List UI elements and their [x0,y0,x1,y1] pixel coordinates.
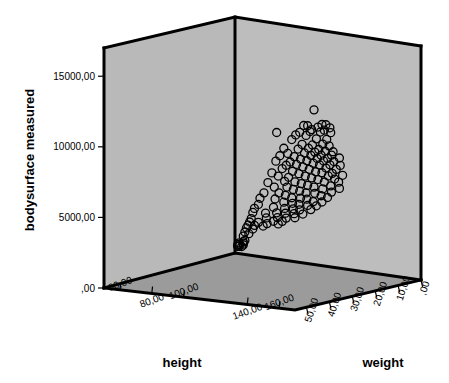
z-axis: 15000,0010000,005000,00,00 [53,71,104,294]
plot-canvas: 15000,0010000,005000,00,00 60,0080,00100… [0,0,449,383]
back-left-wall [104,17,235,288]
z-tick-label: 10000,00 [53,141,95,152]
x-tick-mark [152,287,153,294]
z-tick-label: 15000,00 [53,71,95,82]
y-axis-title: weight [361,355,404,370]
z-axis-title: bodysurface measured [22,89,37,231]
scatterplot-3d-chart: 15000,0010000,005000,00,00 60,0080,00100… [0,0,449,383]
x-tick-mark [247,298,248,305]
plot-cube [104,17,421,310]
z-tick-label: 5000,00 [59,212,96,223]
z-tick-label: ,00 [81,283,95,294]
x-axis-title: height [163,355,203,370]
